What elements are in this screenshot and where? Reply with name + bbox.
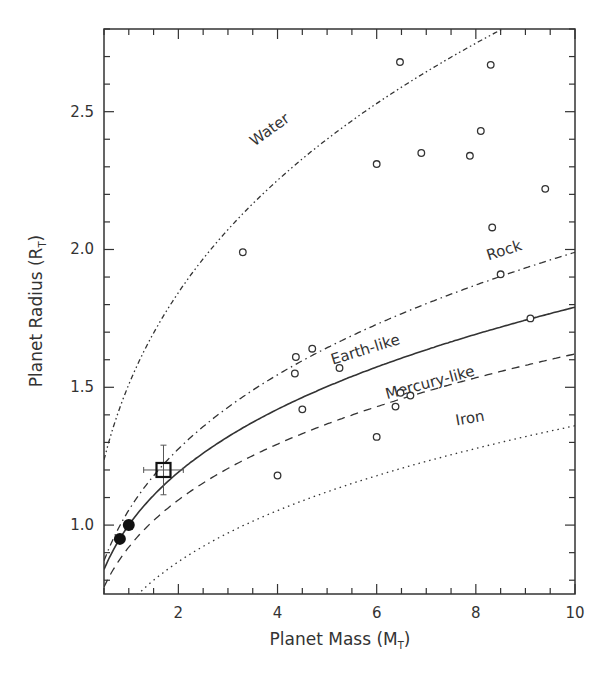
open-point [489,224,496,231]
model-curves [104,0,575,639]
open-point [293,354,300,361]
x-axis-title: Planet Mass (MT) [270,629,411,651]
open-point [240,249,247,256]
filled-point [114,533,126,545]
y-axis-title: Planet Radius (RT) [26,235,48,387]
curve-water [104,0,575,460]
y-tick-label: 2.5 [70,103,94,121]
open-point [392,403,399,410]
open-point [467,152,474,159]
label-rock: Rock [484,236,524,264]
open-point [309,345,316,352]
curve-rock [104,252,575,561]
axis-ticks [104,29,575,594]
open-point [527,315,534,322]
curve-earth-like [104,307,575,569]
label-water: Water [246,109,293,150]
curve-labels: WaterRockEarth-likeMercury-likeIron [246,109,524,430]
open-point [397,390,404,397]
open-point [292,370,299,377]
y-tick-label: 2.0 [70,240,94,258]
label-earth-like: Earth-like [329,330,403,368]
x-tick-label: 10 [565,604,584,622]
x-tick-label: 2 [174,604,184,622]
open-point [407,392,414,399]
label-iron: Iron [454,407,486,430]
label-mercury-like: Mercury-like [383,362,476,403]
y-tick-label: 1.0 [70,516,94,534]
open-point [487,62,494,69]
x-tick-label: 6 [372,604,382,622]
y-tick-label: 1.5 [70,378,94,396]
open-point [418,150,425,157]
open-point [497,271,504,278]
open-point [397,59,404,66]
open-point [336,365,343,372]
filled-point [123,519,135,531]
open-point [299,406,306,413]
x-tick-label: 8 [471,604,481,622]
plot-frame [104,29,575,594]
mass-radius-chart: WaterRockEarth-likeMercury-likeIron 2468… [0,0,615,685]
open-point [373,434,380,441]
x-tick-label: 4 [273,604,283,622]
open-point [274,472,281,479]
tick-labels: 2468101.01.52.02.5 [70,103,584,622]
open-point [542,186,549,193]
error-bars [144,445,184,495]
open-point [373,161,380,168]
open-point [478,128,485,135]
